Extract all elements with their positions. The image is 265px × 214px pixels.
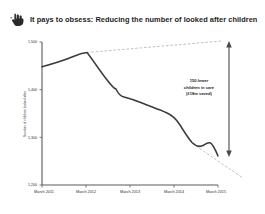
y-tick-label-1500: 1,500 (28, 40, 37, 44)
y-tick-label-1200: 1,200 (28, 183, 37, 187)
line-chart: 1,500 1,400 1,300 1,200 March 2011 March… (0, 30, 265, 210)
callout-line-2: children in care (184, 85, 215, 90)
pointing-hand-icon (8, 11, 26, 29)
slide-title: It pays to obsess: Reducing the number o… (30, 15, 257, 25)
y-tick-label-1300: 1,300 (28, 136, 37, 140)
savings-callout: 150 fewer children in care (£18m saved) (184, 78, 215, 96)
x-tick-label-march-2012: March 2012 (76, 190, 96, 194)
y-axis-title: Number of children looked after (23, 90, 27, 137)
chart-axes (40, 42, 219, 188)
arrow-head-up (226, 41, 232, 48)
x-tick-label-march-2013: March 2013 (120, 190, 140, 194)
x-tick-label-march-2015: March 2015 (206, 190, 226, 194)
x-tick-label-march-2011: March 2011 (34, 190, 54, 194)
data-series-line (42, 53, 218, 157)
x-tick-labels: March 2011 March 2012 March 2013 March 2… (34, 190, 226, 194)
savings-gap-arrow (226, 41, 232, 157)
callout-line-1: 150 fewer (190, 78, 209, 83)
projected-rising-trend-line (87, 41, 222, 53)
continuing-decline-trend-line (196, 146, 243, 178)
slide-canvas: It pays to obsess: Reducing the number o… (0, 0, 265, 214)
callout-line-3: (£18m saved) (186, 91, 213, 96)
y-tick-labels: 1,500 1,400 1,300 1,200 (28, 40, 37, 187)
chart-container: 1,500 1,400 1,300 1,200 March 2011 March… (0, 30, 265, 210)
slide-title-row: It pays to obsess: Reducing the number o… (0, 9, 265, 31)
y-tick-label-1400: 1,400 (28, 88, 37, 92)
arrow-head-down (226, 151, 232, 158)
x-tick-label-march-2014: March 2014 (164, 190, 184, 194)
